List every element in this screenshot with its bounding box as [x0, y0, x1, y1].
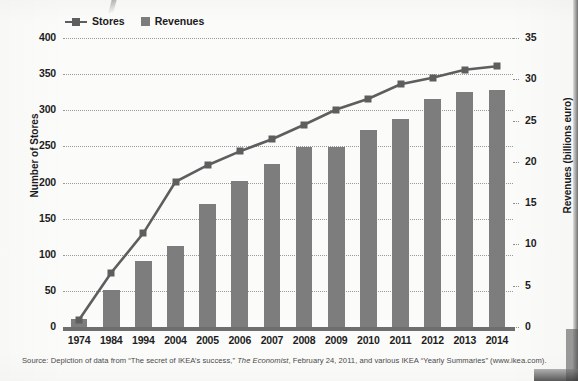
right-tick-label: 35 [525, 31, 551, 43]
stores-marker [140, 230, 147, 237]
stores-marker [333, 106, 340, 113]
page-edge-corner [534, 369, 578, 381]
left-tick-label: 150 [22, 212, 56, 224]
x-tick-label: 2008 [288, 334, 320, 346]
x-tick-label: 2005 [192, 334, 224, 346]
chart-page: Stores Revenues Number of Stores Revenue… [0, 0, 578, 381]
x-tick-label: 2004 [159, 334, 191, 346]
left-tick-label: 50 [22, 284, 56, 296]
x-tick-label: 2009 [320, 334, 352, 346]
right-tick-label: 20 [525, 155, 551, 167]
stores-marker [429, 74, 436, 81]
right-tick-label: 0 [525, 320, 551, 332]
right-tick-label: 10 [525, 237, 551, 249]
left-tick-label: 100 [22, 248, 56, 260]
x-tick-label: 1984 [95, 334, 127, 346]
stores-marker [108, 269, 115, 276]
legend-item-revenues: Revenues [141, 15, 205, 27]
chart-legend: Stores Revenues [65, 15, 204, 27]
legend-label-stores: Stores [92, 15, 125, 27]
right-tick-label: 5 [525, 279, 551, 291]
right-tick-label: 25 [525, 114, 551, 126]
right-tick-label: 15 [525, 196, 551, 208]
left-tick-label: 400 [22, 31, 56, 43]
left-tick-label: 300 [22, 103, 56, 115]
right-tick-mark [513, 121, 519, 122]
x-tick-label: 2011 [384, 334, 416, 346]
x-tick-label: 2006 [224, 334, 256, 346]
stores-marker [236, 148, 243, 155]
x-tick-label: 1994 [127, 334, 159, 346]
left-tick-label: 250 [22, 139, 56, 151]
stores-line-path [63, 38, 513, 327]
right-tick-mark [513, 38, 519, 39]
right-tick-mark [513, 203, 519, 204]
source-note: Source: Depiction of data from “The secr… [22, 356, 562, 365]
stores-marker [204, 162, 211, 169]
right-tick-mark [513, 244, 519, 245]
stores-line-series [63, 38, 513, 327]
stores-marker [365, 95, 372, 102]
x-tick-label: 1974 [63, 334, 95, 346]
right-tick-label: 30 [525, 72, 551, 84]
stores-marker [493, 63, 500, 70]
right-tick-mark [513, 162, 519, 163]
right-tick-mark [513, 79, 519, 80]
stores-marker [76, 316, 83, 323]
stores-marker [172, 178, 179, 185]
source-suffix: , February 24, 2011, and various IKEA “Y… [288, 356, 546, 365]
left-tick-label: 200 [22, 176, 56, 188]
left-tick-label: 350 [22, 67, 56, 79]
x-tick-label: 2014 [481, 334, 513, 346]
legend-item-stores: Stores [65, 15, 125, 27]
ikea-stores-revenues-chart: Stores Revenues Number of Stores Revenue… [0, 0, 578, 349]
x-tick-label: 2010 [352, 334, 384, 346]
x-tick-label: 2013 [449, 334, 481, 346]
source-italic: The Economist [237, 356, 288, 365]
line-square-marker-icon [65, 17, 87, 26]
right-tick-mark [513, 286, 519, 287]
plot-area [63, 38, 513, 327]
legend-label-revenues: Revenues [155, 15, 205, 27]
stores-marker [301, 121, 308, 128]
source-prefix: Source: Depiction of data from “The secr… [22, 356, 237, 365]
right-axis-title: Revenues (billions euro) [562, 76, 573, 236]
stores-marker [268, 136, 275, 143]
left-tick-label: 0 [22, 320, 56, 332]
filled-square-icon [141, 17, 150, 26]
x-axis-baseline [63, 327, 515, 331]
stores-marker [461, 66, 468, 73]
x-tick-label: 2007 [256, 334, 288, 346]
x-tick-label: 2012 [417, 334, 449, 346]
stores-marker [397, 81, 404, 88]
